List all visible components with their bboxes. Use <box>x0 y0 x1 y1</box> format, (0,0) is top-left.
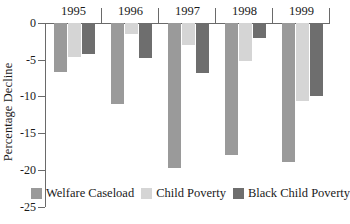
y-tick-label: -10 <box>0 90 36 102</box>
y-tick-label: -25 <box>0 201 36 213</box>
legend-swatch-icon <box>31 188 42 199</box>
bar-child-poverty-1999 <box>296 23 310 101</box>
bar-black-child-poverty-1997 <box>196 23 210 73</box>
bar-black-child-poverty-1999 <box>310 23 324 96</box>
bar-black-child-poverty-1998 <box>253 23 267 38</box>
x-axis-year-label: 1998 <box>216 4 273 18</box>
bar-black-child-poverty-1995 <box>82 23 96 54</box>
legend-label: Black Child Poverty <box>248 187 350 200</box>
y-tick-mark <box>38 207 45 208</box>
bar-welfare-caseload-1997 <box>168 23 182 168</box>
bar-child-poverty-1997 <box>182 23 196 45</box>
x-axis-year-label: 1997 <box>159 4 216 18</box>
bar-child-poverty-1996 <box>125 23 139 34</box>
x-axis-year-label: 1996 <box>102 4 159 18</box>
legend-swatch-icon <box>233 188 244 199</box>
bar-welfare-caseload-1999 <box>282 23 296 162</box>
bar-child-poverty-1998 <box>239 23 253 61</box>
legend-entry: Welfare Caseload <box>31 187 134 200</box>
bar-welfare-caseload-1998 <box>225 23 239 155</box>
bar-child-poverty-1995 <box>68 23 82 57</box>
y-tick-mark <box>38 170 45 171</box>
bar-black-child-poverty-1996 <box>139 23 153 58</box>
y-tick-mark <box>38 96 45 97</box>
chart-legend: Welfare CaseloadChild PovertyBlack Child… <box>45 185 336 201</box>
legend-label: Child Poverty <box>156 187 226 200</box>
y-tick-mark <box>38 133 45 134</box>
y-tick-label: 0 <box>0 17 36 29</box>
legend-label: Welfare Caseload <box>46 187 134 200</box>
plot-area <box>45 23 330 207</box>
x-axis-year-label: 1999 <box>273 4 330 18</box>
y-tick-label: -5 <box>0 54 36 66</box>
x-axis-year-label: 1995 <box>45 4 102 18</box>
y-axis-label: Percentage Decline <box>0 0 16 224</box>
y-tick-label: -15 <box>0 127 36 139</box>
y-tick-label: -20 <box>0 164 36 176</box>
bar-welfare-caseload-1995 <box>54 23 68 72</box>
bar-welfare-caseload-1996 <box>111 23 125 104</box>
y-tick-mark <box>38 60 45 61</box>
y-tick-mark <box>38 23 45 24</box>
legend-entry: Black Child Poverty <box>233 187 350 200</box>
legend-entry: Child Poverty <box>141 187 226 200</box>
legend-swatch-icon <box>141 188 152 199</box>
